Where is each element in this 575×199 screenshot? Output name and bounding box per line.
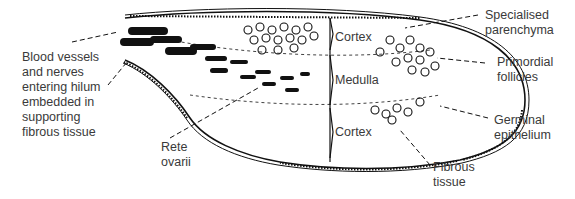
label-blood-vessels: Blood vessels and nerves entering hilum … xyxy=(22,50,101,140)
label-specialised-parenchyma: Specialised parenchyma xyxy=(485,8,554,38)
label-fibrous-tissue: Fibrous tissue xyxy=(433,160,475,190)
label-primordial-follicles: Primordial follicles xyxy=(497,55,553,85)
label-rete-ovarii: Rete ovarii xyxy=(161,140,191,170)
label-medulla: Medulla xyxy=(335,73,379,87)
blood-vessels xyxy=(120,27,310,92)
label-cortex-top: Cortex xyxy=(335,30,372,44)
leader-lines xyxy=(72,15,488,165)
label-cortex-bottom: Cortex xyxy=(335,125,372,139)
label-germinal-epithelium: Germinal epithelium xyxy=(494,113,551,143)
zone-divider xyxy=(330,18,333,162)
